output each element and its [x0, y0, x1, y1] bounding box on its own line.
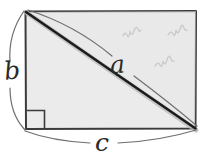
figure-root: a b c: [0, 0, 204, 157]
brace-c: [25, 130, 196, 143]
brace-b-segment-lower: [10, 88, 25, 130]
label-b: b: [3, 55, 22, 86]
label-a: a: [109, 50, 126, 80]
label-c: c: [95, 128, 109, 157]
brace-b-segment-upper: [10, 11, 24, 62]
brace-c-segment-right: [118, 130, 196, 143]
brace-c-segment-left: [25, 131, 90, 143]
geometry-diagram: a b c: [0, 0, 204, 157]
